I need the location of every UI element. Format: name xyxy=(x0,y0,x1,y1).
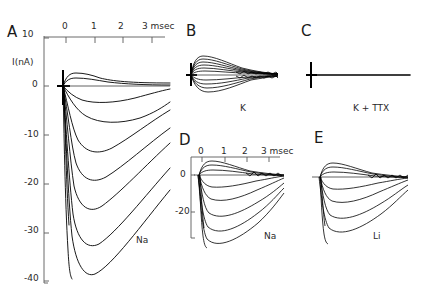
panel-e-traces xyxy=(319,163,408,244)
figure-canvas: A 10 I(nA) 0 -10 -20 -30 -40 0 1 2 3 mse… xyxy=(0,0,424,299)
panel-e-plot xyxy=(0,0,424,299)
